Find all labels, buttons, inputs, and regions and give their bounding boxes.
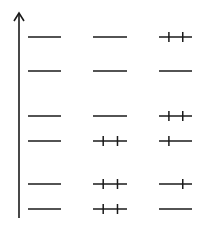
energy-level bbox=[159, 179, 192, 189]
energy-level bbox=[93, 179, 127, 189]
energy-level bbox=[93, 136, 127, 146]
energy-level-diagram bbox=[0, 0, 203, 228]
energy-axis bbox=[14, 13, 24, 218]
energy-level bbox=[159, 136, 192, 146]
energy-levels bbox=[28, 32, 192, 214]
energy-level bbox=[159, 111, 192, 121]
energy-level bbox=[93, 204, 127, 214]
energy-level bbox=[159, 32, 192, 42]
